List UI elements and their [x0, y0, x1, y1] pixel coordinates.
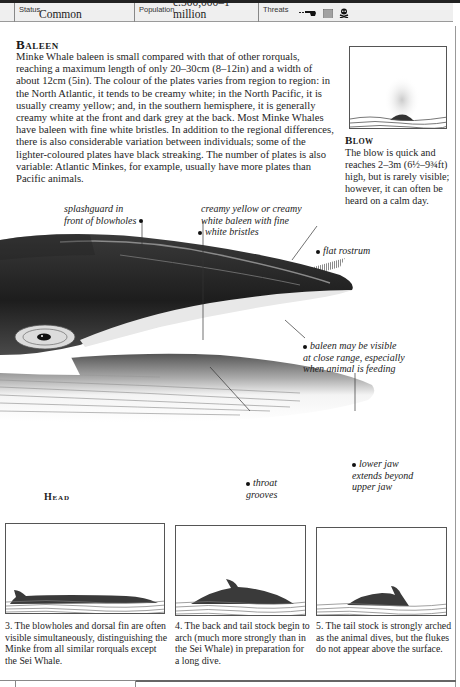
annotation-baleen-visible: baleen may be visible at close range, es…: [303, 340, 405, 375]
head-label: Head: [44, 491, 70, 502]
dive-sequence-frame-3: [5, 523, 165, 614]
population-cell: Population c.500,000–1 million: [134, 3, 258, 22]
whale-eye: [37, 334, 51, 341]
population-value: c.500,000–1 million: [173, 0, 258, 20]
annotation-flat-rostrum: flat rostrum: [316, 245, 370, 257]
blow-illustration: [349, 46, 447, 129]
dive-sequence-frame-4: [175, 525, 306, 616]
dive-caption-4: 4. The back and tail stock begin to arch…: [175, 620, 310, 666]
annotation-dot: [303, 345, 307, 349]
annotation-splashguard: splashguard in front of blowholes: [64, 203, 146, 226]
threats-cell: Threats: [258, 3, 453, 22]
status-value: Common: [39, 8, 82, 20]
annotation-dot: [198, 231, 202, 235]
status-label: Status: [19, 5, 40, 14]
dive-caption-3: 3. The blowholes and dorsal fin are ofte…: [5, 620, 170, 666]
fishing-net-icon: [323, 9, 333, 18]
dive-caption-5: 5. The tail stock is strongly arched as …: [316, 620, 454, 655]
blow-spray: [384, 71, 420, 119]
annotation-dot: [316, 250, 320, 254]
annotation-dot: [139, 219, 143, 223]
blow-paragraph: The blow is quick and reaches 2–3m (6½–9…: [345, 147, 457, 207]
annotation-dot: [246, 482, 250, 486]
baleen-paragraph: Minke Whale baleen is small compared wit…: [16, 51, 334, 185]
annotation-baleen-color: creamy yellow or creamy white baleen wit…: [201, 203, 302, 238]
whale-arching-silhouette: [191, 579, 294, 604]
pollution-skull-icon: [339, 8, 349, 18]
threats-label: Threats: [263, 5, 288, 14]
whale-diving-silhouette: [347, 586, 409, 606]
annotation-lower-jaw: lower jaw extends beyond upper jaw: [352, 458, 413, 493]
blow-heading: Blow: [345, 134, 374, 146]
whale-head-illustration: splashguard in front of blowholes creamy…: [0, 215, 460, 485]
annotation-dot: [352, 463, 356, 467]
bottom-rule: [0, 680, 456, 687]
status-bar-spacer: [0, 3, 14, 22]
annotation-throat-grooves: throat grooves: [246, 477, 277, 500]
dive-sequence-frame-5: [316, 527, 447, 616]
status-cell: Status Common: [14, 3, 134, 22]
whaling-harpoon-icon: [299, 9, 317, 17]
population-label: Population: [139, 5, 174, 14]
status-bar: Status Common Population c.500,000–1 mil…: [0, 0, 460, 22]
